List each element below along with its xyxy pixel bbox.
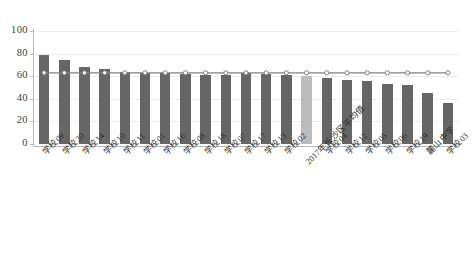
line-marker: [82, 71, 86, 75]
line-marker: [143, 71, 147, 75]
line-marker: [345, 71, 349, 75]
line-marker: [284, 71, 288, 75]
line-marker: [325, 71, 329, 75]
y-tick-label: 80: [0, 47, 28, 58]
line-marker: [163, 71, 167, 75]
line-marker: [62, 71, 66, 75]
y-tick-label: 20: [0, 114, 28, 125]
line-marker: [244, 71, 248, 75]
line-marker: [42, 71, 46, 75]
x-axis-labels: 学校09学校20学校14学校10学校11学校01学校16学校08学校18学校07…: [0, 148, 476, 248]
plot-area: [34, 31, 458, 144]
y-tick-label: 100: [0, 24, 28, 35]
y-tick-label: 0: [0, 137, 28, 148]
line-marker: [103, 71, 107, 75]
line-marker: [365, 71, 369, 75]
line-marker: [123, 71, 127, 75]
y-tick-label: 40: [0, 92, 28, 103]
y-tick-label: 60: [0, 69, 28, 80]
line-marker: [183, 71, 187, 75]
line-marker: [426, 71, 430, 75]
line-marker: [264, 71, 268, 75]
line-series: [34, 31, 458, 144]
line-marker: [224, 71, 228, 75]
line-marker: [204, 71, 208, 75]
line-marker: [405, 71, 409, 75]
line-marker: [446, 71, 450, 75]
line-marker: [385, 71, 389, 75]
line-marker: [304, 71, 308, 75]
chart-container: 020406080100 学校09学校20学校14学校10学校11学校01学校1…: [0, 0, 476, 254]
